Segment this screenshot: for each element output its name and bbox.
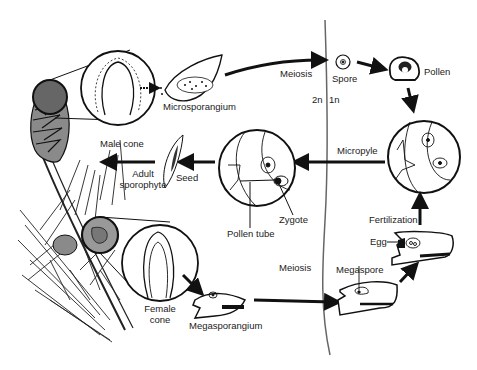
egg-illustration (387, 232, 453, 265)
arrow-spore-to-pollen (357, 62, 380, 68)
label-ploidy-2n: 2n (312, 94, 323, 105)
microsporangium-illustration (160, 55, 222, 101)
label-pollen-tube: Pollen tube (227, 228, 275, 239)
label-adult-sporophyte: Adult sporophyte (118, 168, 168, 190)
label-female-cone-line2: cone (140, 314, 180, 325)
label-megasporangium: Megasporangium (189, 320, 262, 331)
ploidy-divider-line (323, 20, 330, 355)
label-micropyle: Micropyle (337, 145, 378, 156)
label-megaspore: Megaspore (336, 264, 384, 275)
label-adult-sporophyte-line2: sporophyte (118, 179, 168, 190)
label-zygote: Zygote (279, 214, 308, 225)
label-meiosis-top: Meiosis (280, 68, 312, 79)
label-female-cone: Female cone (140, 303, 180, 325)
micropyle-illustration (388, 121, 460, 193)
pollen-illustration (390, 57, 419, 80)
arrow-megasporangium-to-megaspore (254, 300, 333, 302)
label-fertilization: Fertilization (369, 214, 418, 225)
label-adult-sporophyte-line1: Adult (118, 168, 168, 179)
pine-life-cycle-diagram: Male cone Microsporangium Meiosis Spore … (0, 0, 477, 370)
label-female-cone-line1: Female (140, 303, 180, 314)
arrow-pollen-to-micropyle (408, 88, 412, 105)
label-meiosis-bottom: Meiosis (279, 262, 311, 273)
label-ploidy-1n: 1n (329, 94, 340, 105)
label-seed: Seed (176, 172, 198, 183)
spore-illustration (336, 55, 350, 69)
label-spore: Spore (332, 73, 357, 84)
label-egg: Egg (370, 236, 387, 247)
label-male-cone: Male cone (100, 138, 144, 149)
diagram-canvas (0, 0, 477, 370)
arrow-megaspore-to-egg (400, 268, 413, 282)
male-cone-illustration (31, 80, 69, 162)
megasporangium-illustration (193, 292, 245, 318)
label-microsporangium: Microsporangium (163, 101, 236, 112)
label-pollen: Pollen (424, 66, 450, 77)
